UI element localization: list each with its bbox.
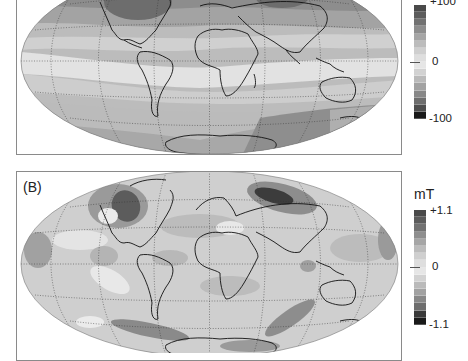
colorbar-cell [414, 246, 426, 253]
colorbar-cell [414, 232, 426, 239]
colorbar-cell [414, 112, 426, 119]
colorbar-b-zero-tick [410, 267, 420, 268]
colorbar-cell [414, 210, 426, 217]
colorbar-cell [414, 98, 426, 105]
colorbar-cell [414, 105, 426, 112]
colorbar-cell [414, 268, 426, 275]
colorbar-cell [414, 318, 426, 325]
colorbar-cell [414, 289, 426, 296]
map-b [20, 170, 400, 353]
panel-b-label: (B) [23, 179, 42, 195]
colorbar-a-zero-label: 0 [432, 55, 438, 67]
colorbar-cell [414, 69, 426, 76]
colorbar-a-zero-tick [410, 62, 420, 63]
colorbar-cell [414, 91, 426, 98]
colorbar-cell [414, 26, 426, 33]
map-a [20, 0, 400, 160]
colorbar-b-zero-label: 0 [432, 260, 438, 272]
colorbar-cell [414, 12, 426, 19]
colorbar-cell [414, 296, 426, 303]
colorbar-cell [414, 311, 426, 318]
colorbar-cell [414, 217, 426, 224]
colorbar-a-min-label: -100 [429, 112, 452, 124]
colorbar-cell [414, 55, 426, 62]
colorbar-b-max-label: +1.1 [430, 204, 453, 216]
colorbar-cell [414, 62, 426, 69]
colorbar-b-unit: mT [414, 186, 434, 202]
colorbar-cell [414, 253, 426, 260]
colorbar-cell [414, 239, 426, 246]
colorbar-cell [414, 5, 426, 12]
colorbar-cell [414, 76, 426, 83]
colorbar-cell [414, 83, 426, 90]
colorbar-cell [414, 282, 426, 289]
colorbar-cell [414, 34, 426, 41]
colorbar-cell [414, 275, 426, 282]
colorbar-cell [414, 48, 426, 55]
colorbar-cell [414, 303, 426, 310]
colorbar-cell [414, 41, 426, 48]
colorbar-cell [414, 224, 426, 231]
colorbar-a-max-label: +100 [430, 0, 456, 7]
colorbar-b-min-label: -1.1 [429, 318, 449, 330]
colorbar-cell [414, 19, 426, 26]
